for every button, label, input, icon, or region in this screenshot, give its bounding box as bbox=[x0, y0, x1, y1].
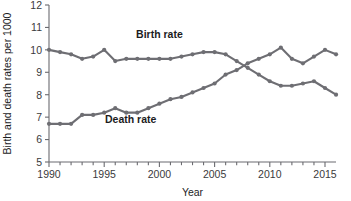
data-point bbox=[146, 106, 150, 110]
data-point bbox=[113, 59, 117, 63]
x-axis-tick-label: 2015 bbox=[313, 168, 337, 180]
data-point bbox=[179, 54, 183, 58]
series-label-birth-rate: Birth rate bbox=[136, 28, 183, 40]
x-axis-tick-label: 2010 bbox=[258, 168, 282, 180]
data-point bbox=[113, 106, 117, 110]
data-point bbox=[168, 57, 172, 61]
y-axis-tick-label: 12 bbox=[30, 0, 42, 11]
data-point bbox=[168, 97, 172, 101]
data-point bbox=[334, 52, 338, 56]
y-axis-tick-label: 5 bbox=[36, 156, 42, 168]
data-point bbox=[190, 90, 194, 94]
data-point bbox=[201, 50, 205, 54]
y-axis-tick-label: 8 bbox=[36, 89, 42, 101]
data-point bbox=[213, 81, 217, 85]
data-point bbox=[257, 72, 261, 76]
data-point bbox=[69, 52, 73, 56]
data-point bbox=[224, 72, 228, 76]
data-point bbox=[91, 54, 95, 58]
data-point bbox=[312, 79, 316, 83]
y-axis-tick-label: 10 bbox=[30, 44, 42, 56]
data-point bbox=[146, 57, 150, 61]
x-axis-tick-label: 1995 bbox=[93, 168, 117, 180]
y-axis-tick-label: 11 bbox=[31, 21, 42, 33]
data-point bbox=[135, 57, 139, 61]
data-point bbox=[201, 86, 205, 90]
data-point bbox=[312, 54, 316, 58]
data-point bbox=[179, 95, 183, 99]
data-point bbox=[235, 68, 239, 72]
y-axis-tick-label: 7 bbox=[36, 111, 42, 123]
data-point bbox=[80, 113, 84, 117]
data-point bbox=[301, 61, 305, 65]
line-chart: 56789101112199019952000200520102015Birth… bbox=[0, 0, 351, 201]
data-point bbox=[257, 57, 261, 61]
data-point bbox=[279, 84, 283, 88]
x-axis-title: Year bbox=[182, 186, 204, 198]
data-point bbox=[157, 57, 161, 61]
y-axis-title: Birth and death rates per 1000 bbox=[1, 12, 13, 154]
series-label-death-rate: Death rate bbox=[105, 113, 157, 125]
data-point bbox=[323, 48, 327, 52]
data-point bbox=[124, 57, 128, 61]
y-axis-tick-label: 6 bbox=[36, 133, 42, 145]
x-axis-tick-label: 1990 bbox=[37, 168, 61, 180]
data-point bbox=[268, 79, 272, 83]
x-axis-tick-label: 2000 bbox=[148, 168, 172, 180]
data-point bbox=[47, 48, 51, 52]
data-point bbox=[301, 81, 305, 85]
data-point bbox=[80, 57, 84, 61]
data-point bbox=[69, 122, 73, 126]
data-point bbox=[47, 122, 51, 126]
data-point bbox=[246, 61, 250, 65]
x-axis-tick-label: 2005 bbox=[203, 168, 227, 180]
data-point bbox=[213, 50, 217, 54]
data-point bbox=[58, 122, 62, 126]
data-point bbox=[190, 52, 194, 56]
data-point bbox=[235, 59, 239, 63]
data-point bbox=[224, 52, 228, 56]
data-point bbox=[279, 46, 283, 50]
y-axis-tick-label: 9 bbox=[36, 66, 42, 78]
data-point bbox=[102, 48, 106, 52]
data-point bbox=[58, 50, 62, 54]
data-point bbox=[323, 86, 327, 90]
data-point bbox=[91, 113, 95, 117]
data-point bbox=[290, 84, 294, 88]
data-point bbox=[268, 52, 272, 56]
chart-container: 56789101112199019952000200520102015Birth… bbox=[0, 0, 351, 201]
data-point bbox=[157, 102, 161, 106]
data-point bbox=[334, 93, 338, 97]
data-point bbox=[246, 66, 250, 70]
data-point bbox=[290, 57, 294, 61]
